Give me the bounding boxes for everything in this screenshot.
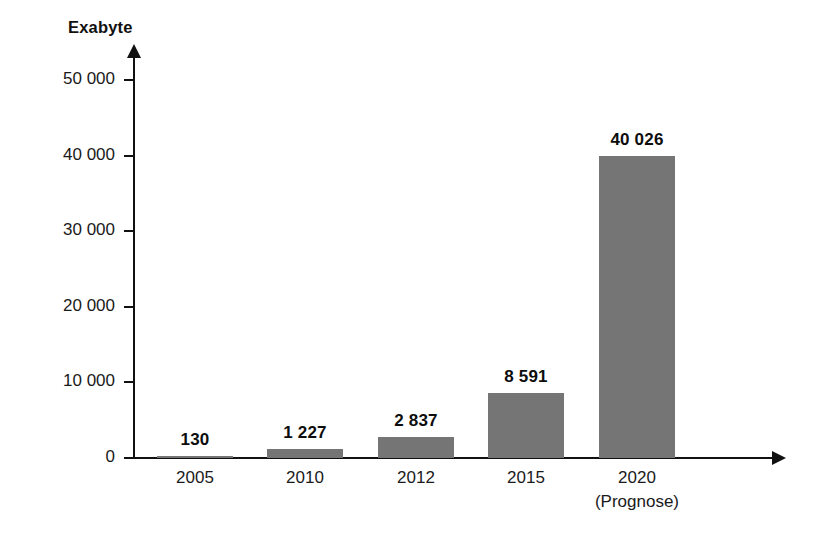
y-tick-mark bbox=[124, 306, 133, 308]
bar-value-2020: 40 026 bbox=[597, 130, 677, 150]
y-tick-label: 50 000 bbox=[63, 69, 124, 89]
y-tick-label: 0 bbox=[106, 447, 124, 467]
bar-2012[interactable] bbox=[378, 437, 454, 458]
bar-value-2005: 130 bbox=[155, 430, 235, 450]
x-label-2020: 2020 bbox=[597, 468, 677, 488]
bar-value-2015: 8 591 bbox=[486, 367, 566, 387]
y-tick-mark bbox=[124, 155, 133, 157]
y-tick-label: 40 000 bbox=[63, 145, 124, 165]
y-tick-label: 20 000 bbox=[63, 296, 124, 316]
x-label-2010: 2010 bbox=[265, 468, 345, 488]
bar-value-2012: 2 837 bbox=[376, 411, 456, 431]
bar-value-2010: 1 227 bbox=[265, 423, 345, 443]
bar-2015[interactable] bbox=[488, 393, 564, 458]
x-axis-arrow-icon bbox=[772, 451, 786, 465]
y-tick-label: 10 000 bbox=[63, 371, 124, 391]
bar-chart: Exabyte 0 10 000 20 000 30 000 40 000 50… bbox=[0, 0, 823, 538]
y-axis-title: Exabyte bbox=[68, 18, 133, 37]
bar-2020[interactable] bbox=[599, 156, 675, 458]
x-sublabel-2020: (Prognose) bbox=[587, 492, 687, 512]
y-tick-label: 30 000 bbox=[63, 220, 124, 240]
bar-2010[interactable] bbox=[267, 449, 343, 458]
x-label-2012: 2012 bbox=[376, 468, 456, 488]
y-tick-mark bbox=[124, 230, 133, 232]
x-label-2005: 2005 bbox=[155, 468, 235, 488]
bar-2005[interactable] bbox=[157, 456, 233, 458]
y-tick-mark bbox=[124, 381, 133, 383]
y-axis-line bbox=[133, 56, 135, 459]
x-label-2015: 2015 bbox=[486, 468, 566, 488]
y-tick-mark bbox=[124, 457, 133, 459]
y-tick-mark bbox=[124, 79, 133, 81]
